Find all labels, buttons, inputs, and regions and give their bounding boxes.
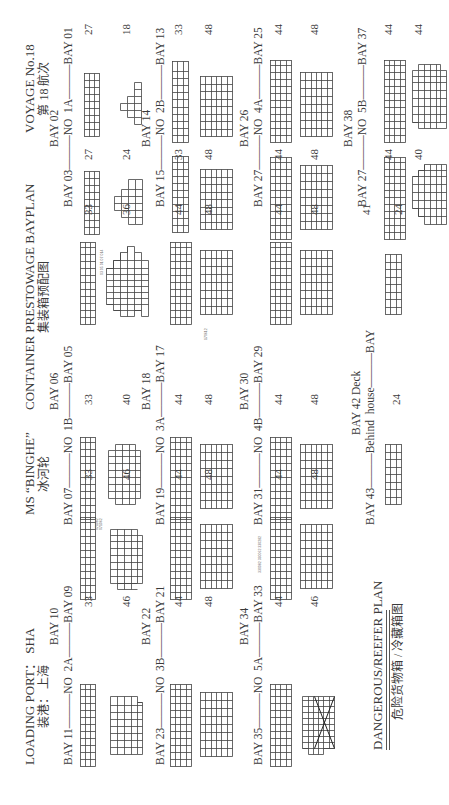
bay-pair-label-top: BAY 34	[238, 608, 251, 645]
bay-pair-label-top: BAY 22	[140, 608, 153, 645]
bay-pair-label: BAY 43———Behind house———BAY	[364, 330, 377, 525]
hold-capacity: 18	[120, 24, 132, 35]
bay13-deck-grid	[172, 59, 190, 143]
bayplan-sheet: LOADING PORT： SHA 装港： 上海 MS “BINGHE” 冰河轮…	[0, 0, 449, 805]
bay-pair-label: BAY 11———NO 2A———BAY 09	[62, 586, 75, 765]
bay37-deck-grid	[384, 59, 408, 143]
bay17-hold-grid	[200, 247, 234, 315]
bay05-annotation: 03 05 01 07 014	[100, 250, 104, 275]
bay-pair-label: BAY 27———NO 5B———BAY 37	[356, 28, 369, 207]
loading-port-label-zh: 装港： 上海	[37, 628, 52, 765]
bay33-deck-grid	[270, 516, 294, 600]
hold-capacity: 48	[202, 394, 214, 405]
bay-pair-label: BAY 15———NO 2B———BAY 13	[154, 28, 167, 207]
bay21-hold-grid	[200, 521, 234, 589]
bay25-hold-grid	[300, 69, 334, 137]
bay19-deck-grid	[170, 436, 194, 520]
deck-capacity: 44	[172, 394, 184, 405]
hold-capacity: 46	[308, 596, 320, 607]
bay11-hold-grid	[110, 695, 144, 755]
bay39-deck-grid	[384, 156, 408, 240]
bay-pair-label-top: BAY 26	[238, 110, 251, 147]
bay-pair-label: BAY 19———NO 3A———BAY 17	[154, 345, 167, 525]
bay-pair-label: BAY 31———NO 4B———BAY 29	[252, 346, 265, 525]
deck-capacity: 44	[272, 394, 284, 405]
bay11-deck-grid	[80, 683, 97, 767]
bay13-hold-grid	[200, 73, 234, 137]
deck-capacity: 27	[82, 24, 94, 35]
bay07-hold-grid	[108, 443, 142, 505]
bay35-hold-grid-crossed	[302, 691, 336, 755]
bay33-hold-grid	[300, 521, 334, 589]
dangerous-reefer-plan-header: DANGEROUS/REEFER PLAN 危险货物箱 / 冷藏箱图	[370, 650, 406, 750]
bay35-deck-grid	[270, 683, 294, 767]
bay23-hold-grid	[200, 689, 234, 757]
bay03-deck-grid	[84, 169, 101, 235]
bay01-deck-grid	[84, 71, 101, 137]
hold-capacity: 48	[202, 596, 214, 607]
deck-capacity: 44	[382, 24, 394, 35]
deck-capacity: 27	[82, 149, 94, 160]
hold-capacity: 48	[308, 24, 320, 35]
loading-port-title: LOADING PORT： SHA 装港： 上海	[22, 628, 52, 765]
hold-capacity: 48	[202, 149, 214, 160]
vessel-title: MS “BINGHE” 冰河轮	[22, 432, 52, 515]
deck-capacity: 33	[82, 394, 94, 405]
hold-capacity: 24	[120, 149, 132, 160]
bay15-deck-grid	[172, 153, 190, 233]
deck-capacity: 44	[272, 24, 284, 35]
bay-pair-label: BAY 35———NO 5A———BAY 33	[252, 585, 265, 765]
bay-pair-label-top: BAY 02	[48, 110, 61, 147]
bay29-hold-grid	[300, 247, 334, 315]
bay15-hold-grid	[200, 166, 234, 230]
bay-pair-label-top: BAY 18	[140, 373, 153, 410]
bay-pair-label-top: BAY 38	[342, 110, 355, 147]
bay03-hold-grid	[114, 177, 144, 225]
bay31-hold-grid	[300, 441, 334, 509]
bay27-deck-grid	[270, 156, 294, 240]
bay19-hold-grid	[200, 441, 234, 509]
bay-pair-label: BAY 03———NO 1A———BAY 01	[62, 27, 75, 207]
reefer-plan-title-zh: 危险货物箱 / 冷藏箱图	[390, 650, 406, 750]
bay-pair-label: BAY 27———NO 4A———BAY 25	[252, 27, 265, 207]
hold-capacity: 48	[202, 24, 214, 35]
bay37-hold-grid	[412, 63, 448, 129]
bay-pair-label-top: BAY 42 Deck	[350, 371, 363, 435]
plan-title-en: CONTAINER PRESTOWAGE BAYPLAN	[22, 184, 37, 410]
bay-pair-label: BAY 23———NO 3B———BAY 21	[154, 586, 167, 765]
hold-capacity: 46	[120, 596, 132, 607]
bay05-hold-grid	[106, 245, 150, 317]
bay29-deck-grid	[270, 241, 294, 325]
bay-pair-label-top: BAY 06	[48, 373, 61, 410]
voyage-number: VOYAGE No.18	[22, 44, 37, 133]
deck-capacity: 24	[390, 394, 402, 405]
loading-port-label: LOADING PORT： SHA	[22, 628, 37, 765]
bay43-deck-grid	[385, 441, 403, 505]
bay17-deck-grid	[170, 241, 194, 325]
hold-capacity: 48	[308, 394, 320, 405]
bay-pair-label-top: BAY 14	[140, 110, 153, 147]
bay09-hold-grid	[110, 528, 144, 590]
deck-capacity: 33	[172, 24, 184, 35]
bay-pair-label: BAY 07———NO 1B———BAY 05	[62, 346, 75, 525]
vessel-name-zh: 冰河轮	[37, 432, 52, 515]
bay33-annotation: 330082 330062 330282	[258, 536, 262, 573]
bay07-deck-grid	[80, 436, 97, 520]
bay07-annotation: 071082071062	[95, 518, 103, 530]
reefer-plan-title: DANGEROUS/REEFER PLAN	[370, 650, 386, 750]
bay23-deck-grid	[170, 683, 194, 767]
bay05-deck-grid	[80, 241, 97, 325]
hold-capacity: 44	[412, 24, 424, 35]
bay27-hold-grid	[300, 162, 334, 230]
bay42-deck-grid	[385, 251, 403, 315]
bay31-deck-grid	[270, 436, 294, 520]
hold-capacity: 40	[120, 394, 132, 405]
vessel-name: MS “BINGHE”	[22, 432, 37, 515]
bay-pair-label-top: BAY 30	[238, 373, 251, 410]
bay17-annotation: 170612	[204, 328, 208, 340]
hold-capacity: 48	[308, 149, 320, 160]
bay21-deck-grid	[170, 516, 194, 600]
bay-pair-label-top: BAY 10	[48, 608, 61, 645]
bay39-hold-grid	[412, 159, 448, 225]
bay25-deck-grid	[270, 59, 294, 143]
